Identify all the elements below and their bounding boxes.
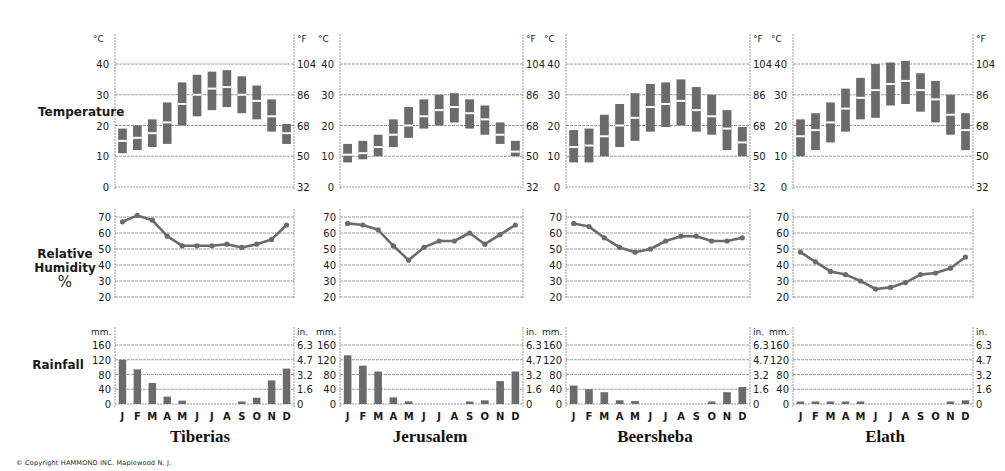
humidity-point: [135, 213, 140, 218]
temp-range-bar: [496, 122, 505, 144]
temp-mean-marker: [148, 132, 157, 134]
temp-f-tick: 32: [976, 182, 989, 193]
rain-mm-tick: 80: [323, 370, 336, 381]
humidity-tick: 50: [323, 244, 336, 255]
climograph-jerusalem: 03210502068308640104°C°F2030405060700040…: [316, 34, 545, 422]
temp-f-tick: 50: [976, 151, 989, 162]
temp-f-tick: 68: [976, 121, 989, 132]
humidity-line: [801, 252, 966, 289]
rain-bar: [253, 398, 260, 404]
temp-range-bar: [208, 72, 217, 110]
rain-bar: [178, 401, 185, 404]
month-label: O: [931, 411, 940, 422]
rain-in-tick: 6.3: [526, 340, 542, 351]
rain-in-tick: 1.6: [753, 384, 769, 395]
month-label: J: [194, 411, 199, 422]
rain-mm-tick: 160: [770, 340, 789, 351]
temp-mean-marker: [282, 132, 291, 134]
humidity-label-percent: %: [20, 275, 110, 289]
rainfall-chart: 00401.6803.21204.71606.3mm.in.JFMAMJJASO…: [316, 327, 542, 422]
humidity-point: [724, 238, 729, 243]
rain-in-tick: 4.7: [753, 355, 769, 366]
temp-range-bar: [358, 141, 367, 159]
temp-c-tick: 40: [547, 59, 560, 70]
temp-mean-marker: [374, 146, 383, 148]
rain-mm-unit: mm.: [316, 327, 336, 337]
temp-mean-marker: [267, 115, 276, 117]
rain-bar: [466, 402, 474, 405]
city-title-elath: Elath: [795, 427, 975, 447]
rain-in-tick: 0: [753, 399, 759, 410]
humidity-point: [194, 243, 199, 248]
humidity-tick: 20: [549, 292, 562, 303]
humidity-point: [120, 219, 125, 224]
rain-bar: [374, 372, 382, 404]
temp-mean-marker: [480, 118, 489, 120]
humidity-point: [843, 272, 848, 277]
month-label: S: [466, 411, 473, 422]
rain-mm-tick: 160: [543, 340, 562, 351]
temp-mean-marker: [465, 112, 474, 114]
humidity-point: [678, 234, 683, 239]
humidity-point: [180, 243, 185, 248]
rain-bar: [631, 401, 639, 404]
humidity-tick: 60: [98, 228, 111, 239]
humidity-tick: 50: [776, 244, 789, 255]
climograph-tiberias: 03210502068308640104°C°F2030405060700040…: [91, 34, 316, 422]
humidity-point: [858, 278, 863, 283]
month-label: O: [252, 411, 261, 422]
temp-f-tick: 32: [753, 182, 766, 193]
rain-mm-tick: 120: [543, 355, 562, 366]
temp-f-tick: 104: [976, 59, 995, 70]
humidity-point: [376, 227, 381, 232]
rain-mm-tick: 80: [98, 370, 111, 381]
month-label: J: [888, 411, 893, 422]
temp-mean-marker: [931, 98, 940, 100]
humidity-point: [740, 235, 745, 240]
city-title-beersheba: Beersheba: [565, 427, 745, 447]
temp-mean-marker: [252, 100, 261, 102]
temp-f-tick: 86: [526, 90, 539, 101]
humidity-point: [873, 286, 878, 291]
rain-bar: [496, 381, 504, 404]
rain-mm-tick: 80: [776, 370, 789, 381]
rain-in-tick: 6.3: [753, 340, 769, 351]
temp-mean-marker: [692, 109, 701, 111]
humidity-point: [406, 258, 411, 263]
humidity-tick: 30: [549, 276, 562, 287]
temp-c-tick: 0: [554, 182, 560, 193]
temp-c-tick: 40: [321, 59, 334, 70]
rain-in-tick: 3.2: [753, 370, 769, 381]
temp-range-bar: [707, 95, 716, 135]
temp-mean-marker: [118, 140, 127, 142]
temp-mean-marker: [389, 134, 398, 136]
humidity-point: [467, 230, 472, 235]
rain-in-tick: 1.6: [526, 384, 542, 395]
temp-mean-marker: [223, 86, 232, 88]
climate-charts-figure: 03210502068308640104°C°F2030405060700040…: [0, 0, 1005, 471]
temp-c-tick: 40: [774, 59, 787, 70]
month-label: J: [647, 411, 652, 422]
humidity-point: [345, 221, 350, 226]
rain-in-tick: 4.7: [976, 355, 992, 366]
temp-mean-marker: [496, 134, 505, 136]
month-label: D: [511, 411, 519, 422]
rain-mm-tick: 40: [549, 384, 562, 395]
temp-mean-marker: [738, 141, 747, 143]
month-label: J: [798, 411, 803, 422]
temp-mean-marker: [615, 125, 624, 127]
month-label: A: [677, 411, 685, 422]
humidity-point: [632, 250, 637, 255]
rain-in-tick: 6.3: [976, 340, 992, 351]
temp-mean-marker: [450, 106, 459, 108]
month-label: J: [345, 411, 350, 422]
month-label: F: [359, 411, 366, 422]
rain-bar: [283, 369, 290, 404]
temp-f-unit: °F: [297, 34, 307, 44]
humidity-point: [948, 266, 953, 271]
rain-in-tick: 4.7: [297, 355, 313, 366]
temp-f-tick: 68: [297, 121, 310, 132]
humidity-point: [239, 245, 244, 250]
temp-c-tick: 0: [781, 182, 787, 193]
rain-in-tick: 0: [297, 399, 303, 410]
